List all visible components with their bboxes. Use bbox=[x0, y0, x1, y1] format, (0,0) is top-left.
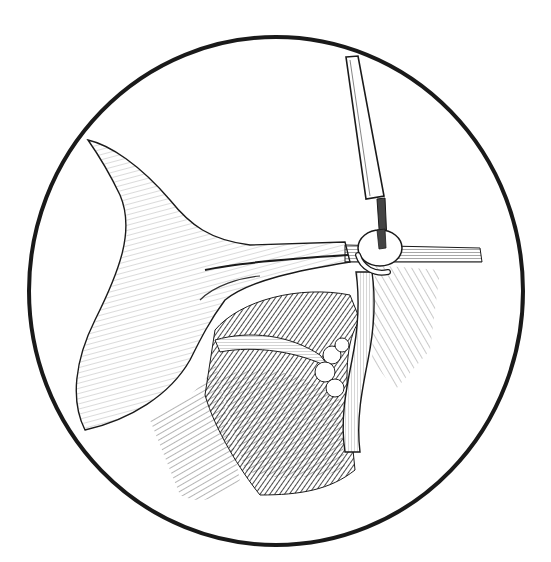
illustration-content bbox=[76, 140, 482, 500]
surgical-instrument bbox=[346, 56, 387, 243]
shadow-hatching-right bbox=[372, 265, 440, 390]
illustration-canvas bbox=[0, 0, 551, 562]
clip-ring bbox=[358, 229, 402, 273]
surgical-illustration bbox=[0, 0, 551, 562]
instrument-shaft bbox=[346, 56, 384, 199]
